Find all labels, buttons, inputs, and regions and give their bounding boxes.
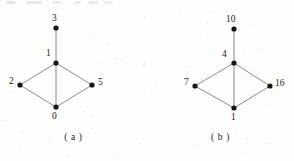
graph-node-label-2: 2 — [9, 77, 14, 87]
graph-node-1 — [231, 105, 236, 110]
graph-node-1 — [53, 60, 58, 65]
figure-b: 1047161 ( b ) — [147, 0, 294, 161]
graph-edge — [234, 63, 270, 86]
graph-node-0 — [53, 104, 58, 109]
caption-a: ( a ) — [0, 132, 147, 142]
graph-node-label-7: 7 — [184, 78, 189, 88]
caption-b: ( b ) — [147, 132, 294, 142]
graph-node-label-4: 4 — [222, 50, 227, 60]
graph-node-10 — [231, 26, 236, 31]
graph-node-2 — [17, 82, 22, 87]
graph-edge — [56, 85, 92, 107]
graph-a-canvas — [0, 0, 147, 128]
graph-edge — [234, 86, 270, 108]
graph-node-16 — [267, 83, 272, 88]
graph-node-label-5: 5 — [98, 78, 103, 88]
graph-edge — [195, 63, 234, 86]
graph-node-label-1: 1 — [231, 113, 236, 123]
graph-b-canvas — [147, 0, 294, 128]
graph-node-label-3: 3 — [52, 14, 57, 24]
graph-edge — [56, 63, 92, 85]
graph-node-label-10: 10 — [226, 15, 236, 25]
graph-node-3 — [53, 25, 58, 30]
graph-node-label-1: 1 — [46, 49, 51, 59]
graph-node-label-16: 16 — [275, 79, 285, 89]
graph-node-label-0: 0 — [52, 112, 57, 122]
graph-edge — [20, 63, 56, 85]
graph-node-7 — [192, 83, 197, 88]
figure-a: 31250 ( a ) — [0, 0, 147, 161]
graph-node-5 — [89, 82, 94, 87]
graph-edge — [20, 85, 56, 107]
graph-edge — [195, 86, 234, 108]
figure-page: 31250 ( a ) 1047161 ( b ) — [0, 0, 294, 161]
graph-node-4 — [231, 60, 236, 65]
